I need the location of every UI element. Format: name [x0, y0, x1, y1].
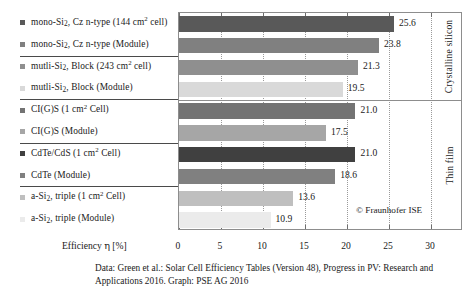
- x-axis-title-prefix: Efficiency: [62, 240, 104, 251]
- category-label-row: a-Si2, triple (1 cm2 Cell): [0, 186, 178, 208]
- group-side-panel: Crystalline siliconThin film: [437, 12, 462, 230]
- category-label-row: CdTe/CdS (1 cm2 Cell): [0, 143, 178, 165]
- category-label-text: CdTe (Module): [31, 171, 90, 181]
- label-group-separator: [20, 56, 178, 57]
- bar-row: 19.5: [179, 78, 437, 100]
- group-side-cell: Thin film: [437, 100, 461, 231]
- bar: [179, 38, 379, 53]
- category-label-row: CI(G)S (Module): [0, 121, 178, 143]
- plot-area: 25.623.821.319.521.017.521.018.613.610.9: [178, 12, 437, 230]
- bar-value-label: 21.3: [363, 60, 380, 71]
- bar: [179, 125, 326, 140]
- category-label-row: mono-Si2, Cz n-type (144 cm2 cell): [0, 12, 178, 34]
- bar: [179, 147, 355, 162]
- x-tick-label: 5: [218, 240, 223, 251]
- legend-swatch-icon: [20, 195, 25, 200]
- bar-value-label: 21.0: [360, 147, 377, 158]
- category-label-text: a-Si2, triple (Module): [31, 214, 114, 224]
- legend-swatch-icon: [20, 42, 25, 47]
- bar-value-label: 19.5: [348, 82, 365, 93]
- caption-line-1: Data: Green et al.: Solar Cell Efficienc…: [95, 263, 433, 273]
- category-label-text: mutli-Si2, Block (Module): [31, 83, 133, 93]
- bar: [179, 169, 335, 184]
- category-label-row: CI(G)S (1 cm2 Cell): [0, 99, 178, 121]
- legend-swatch-icon: [20, 151, 25, 156]
- category-label-text: mono-Si2, Cz n-type (144 cm2 cell): [31, 18, 167, 28]
- group-side-divider: [437, 100, 461, 101]
- group-side-cell: Crystalline silicon: [437, 13, 461, 100]
- bar: [179, 16, 394, 31]
- x-axis-title-suffix: [%]: [110, 240, 127, 251]
- category-label-text: CI(G)S (1 cm2 Cell): [31, 105, 109, 115]
- bar-value-label: 18.6: [340, 169, 357, 180]
- group-section-divider: [179, 100, 437, 101]
- legend-swatch-icon: [20, 86, 25, 91]
- bar-value-label: 17.5: [331, 126, 348, 137]
- bar-row: 21.0: [179, 100, 437, 122]
- x-tick-label: 10: [257, 240, 267, 251]
- legend-swatch-icon: [20, 64, 25, 69]
- legend-swatch-icon: [20, 20, 25, 25]
- x-tick-label: 25: [383, 240, 393, 251]
- legend-swatch-icon: [20, 108, 25, 113]
- bar-row: 25.6: [179, 13, 437, 35]
- bar-value-label: 21.0: [360, 104, 377, 115]
- bar-value-label: 25.6: [399, 17, 416, 28]
- category-label-text: CdTe/CdS (1 cm2 Cell): [31, 149, 120, 159]
- category-label-row: mono-Si2, Cz n-type (Module): [0, 34, 178, 56]
- legend-swatch-icon: [20, 129, 25, 134]
- label-group-separator: [20, 186, 178, 187]
- group-side-label: Thin film: [444, 146, 455, 184]
- bar-row: 18.6: [179, 166, 437, 188]
- bar-row: 17.5: [179, 122, 437, 144]
- legend-swatch-icon: [20, 217, 25, 222]
- label-group-separator: [20, 99, 178, 100]
- group-side-label: Crystalline silicon: [444, 20, 455, 94]
- category-label-column: mono-Si2, Cz n-type (144 cm2 cell)mono-S…: [0, 12, 178, 230]
- category-label-row: a-Si2, triple (Module): [0, 208, 178, 230]
- copyright-notice: © Fraunhofer ISE: [356, 205, 422, 215]
- x-tick-label: 30: [425, 240, 435, 251]
- bar-value-label: 13.6: [298, 191, 315, 202]
- bar: [179, 103, 355, 118]
- category-label-row: CdTe (Module): [0, 165, 178, 187]
- bar: [179, 60, 358, 75]
- category-label-text: mutli-Si2, Block (243 cm2 cell): [31, 62, 151, 72]
- bar: [179, 212, 271, 227]
- bar-row: 21.3: [179, 57, 437, 79]
- bar-row: 21.0: [179, 144, 437, 166]
- legend-swatch-icon: [20, 173, 25, 178]
- bar-row: 23.8: [179, 35, 437, 57]
- bar: [179, 82, 343, 97]
- bar: [179, 191, 293, 206]
- category-label-text: CI(G)S (Module): [31, 127, 98, 137]
- category-label-row: mutli-Si2, Block (Module): [0, 77, 178, 99]
- x-tick-label: 20: [341, 240, 351, 251]
- x-tick-label: 15: [299, 240, 309, 251]
- x-axis-title: Efficiency η [%]: [62, 240, 127, 251]
- source-caption: Data: Green et al.: Solar Cell Efficienc…: [95, 262, 445, 288]
- efficiency-bar-chart: mono-Si2, Cz n-type (144 cm2 cell)mono-S…: [0, 0, 468, 297]
- x-tick-label: 0: [176, 240, 181, 251]
- bar-value-label: 23.8: [384, 38, 401, 49]
- caption-line-2: Applications 2016. Graph: PSE AG 2016: [95, 276, 248, 286]
- bar-value-label: 10.9: [276, 213, 293, 224]
- category-label-row: mutli-Si2, Block (243 cm2 cell): [0, 56, 178, 78]
- category-label-text: a-Si2, triple (1 cm2 Cell): [31, 192, 125, 202]
- category-label-text: mono-Si2, Cz n-type (Module): [31, 40, 149, 50]
- label-group-separator: [20, 143, 178, 144]
